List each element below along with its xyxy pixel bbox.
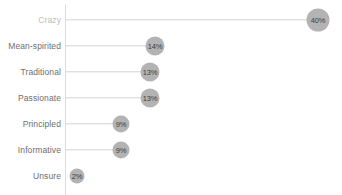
value-bubble[interactable]: 14% — [146, 37, 165, 56]
category-label: Crazy — [38, 15, 61, 25]
connector-line — [66, 71, 147, 72]
connector-line — [66, 45, 152, 46]
category-label: Principled — [23, 119, 61, 129]
connector-line — [66, 149, 118, 150]
connector-line — [66, 19, 315, 20]
value-bubble[interactable]: 40% — [307, 9, 330, 32]
value-bubble[interactable]: 13% — [141, 63, 160, 82]
connector-line — [66, 97, 147, 98]
lollipop-chart: Crazy40%Mean-spirited14%Traditional13%Pa… — [0, 0, 342, 195]
category-axis-line — [65, 4, 66, 195]
category-label: Mean-spirited — [8, 41, 61, 51]
value-bubble[interactable]: 2% — [70, 169, 85, 184]
value-bubble[interactable]: 9% — [113, 142, 130, 159]
category-label: Traditional — [21, 67, 61, 77]
value-bubble[interactable]: 13% — [141, 89, 160, 108]
category-label: Unsure — [33, 171, 61, 181]
connector-line — [66, 123, 118, 124]
category-label: Passionate — [18, 93, 61, 103]
value-bubble[interactable]: 9% — [113, 116, 130, 133]
category-label: Informative — [18, 145, 61, 155]
